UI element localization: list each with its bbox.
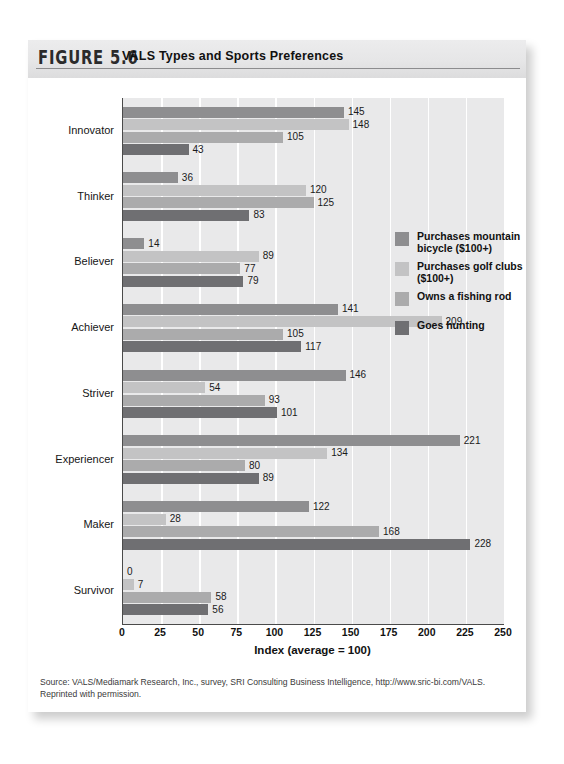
bar-row[interactable]: 54: [123, 382, 504, 393]
category-label: Maker: [83, 518, 114, 530]
bar[interactable]: [123, 341, 301, 352]
bar[interactable]: [123, 407, 277, 418]
bar[interactable]: [123, 329, 283, 340]
bar[interactable]: [123, 579, 134, 590]
legend-label: Purchases golf clubs ($100+): [417, 261, 545, 284]
category-label: Innovator: [68, 124, 114, 136]
bar-row[interactable]: 28: [123, 514, 504, 525]
bar[interactable]: [123, 197, 314, 208]
bar-row[interactable]: 83: [123, 210, 504, 221]
bar[interactable]: [123, 514, 166, 525]
bar-row[interactable]: 89: [123, 473, 504, 484]
x-tick-label: 250: [494, 626, 512, 638]
bar-row[interactable]: 221: [123, 435, 504, 446]
bar[interactable]: [123, 539, 470, 550]
legend-item[interactable]: Goes hunting: [395, 320, 545, 342]
x-tick-label: 0: [119, 626, 125, 638]
bar-row[interactable]: 56: [123, 604, 504, 615]
bar-value-label: 58: [211, 592, 226, 603]
bar[interactable]: [123, 460, 245, 471]
bar-value-label: 125: [314, 197, 335, 208]
gridline: [504, 98, 506, 624]
legend-item[interactable]: Purchases golf clubs ($100+): [395, 261, 545, 284]
figure-header: FIGURE 5.6 VALS Types and Sports Prefere…: [28, 40, 526, 78]
figure-title: VALS Types and Sports Preferences: [122, 49, 344, 63]
bar-row[interactable]: 43: [123, 144, 504, 155]
bar[interactable]: [123, 107, 344, 118]
legend-item[interactable]: Owns a fishing rod: [395, 291, 545, 313]
bar[interactable]: [123, 435, 460, 446]
bar-value-label: 134: [327, 448, 348, 459]
legend-label: Goes hunting: [417, 320, 545, 332]
bar-value-label: 145: [344, 106, 365, 117]
bar-row[interactable]: 80: [123, 460, 504, 471]
bar-row[interactable]: 101: [123, 407, 504, 418]
bar[interactable]: [123, 501, 309, 512]
bar[interactable]: [123, 263, 240, 274]
legend-swatch-icon: [395, 232, 409, 246]
bar[interactable]: [123, 132, 283, 143]
bar[interactable]: [123, 604, 208, 615]
bar[interactable]: [123, 251, 259, 262]
chart-area: Innovator14514810543Thinker3612012583Bel…: [28, 78, 526, 674]
bar[interactable]: [123, 210, 249, 221]
legend-swatch-icon: [395, 262, 409, 276]
bar[interactable]: [123, 382, 205, 393]
legend-item[interactable]: Purchases mountain bicycle ($100+): [395, 231, 545, 254]
bar-value-label: 168: [379, 526, 400, 537]
bar[interactable]: [123, 448, 327, 459]
bar[interactable]: [123, 526, 379, 537]
bar-value-label: 28: [166, 513, 181, 524]
bar-row[interactable]: 228: [123, 539, 504, 550]
bar-value-label: 83: [249, 210, 264, 221]
category-label: Achiever: [71, 321, 114, 333]
bar-row[interactable]: 0: [123, 567, 504, 578]
bar-value-label: 93: [265, 394, 280, 405]
x-tick-label: 200: [418, 626, 436, 638]
bar[interactable]: [123, 185, 306, 196]
bar-row[interactable]: 105: [123, 132, 504, 143]
bar[interactable]: [123, 592, 211, 603]
bar-row[interactable]: 120: [123, 185, 504, 196]
bar-row[interactable]: 36: [123, 172, 504, 183]
bar-row[interactable]: 168: [123, 526, 504, 537]
x-tick-label: 75: [230, 626, 242, 638]
bar-row[interactable]: 7: [123, 579, 504, 590]
x-tick-label: 25: [154, 626, 166, 638]
bar-row[interactable]: 146: [123, 370, 504, 381]
legend-label: Owns a fishing rod: [417, 291, 545, 303]
category-label: Believer: [74, 255, 114, 267]
bar[interactable]: [123, 316, 442, 327]
bar[interactable]: [123, 473, 259, 484]
bar[interactable]: [123, 304, 338, 315]
x-tick-label: 175: [380, 626, 398, 638]
bar-row[interactable]: 58: [123, 592, 504, 603]
bar-value-label: 7: [134, 579, 144, 590]
chart-legend: Purchases mountain bicycle ($100+)Purcha…: [395, 231, 545, 349]
bar-value-label: 0: [123, 567, 133, 578]
bar[interactable]: [123, 395, 265, 406]
bar[interactable]: [123, 144, 189, 155]
bar[interactable]: [123, 119, 349, 130]
bar-row[interactable]: 134: [123, 448, 504, 459]
plot-area: Innovator14514810543Thinker3612012583Bel…: [122, 98, 504, 625]
x-tick-label: 125: [304, 626, 322, 638]
bar-value-label: 14: [144, 238, 159, 249]
bar-value-label: 54: [205, 382, 220, 393]
bar[interactable]: [123, 238, 144, 249]
category-label: Striver: [82, 387, 114, 399]
bar-row[interactable]: 125: [123, 197, 504, 208]
bar-group: Striver1465493101: [123, 370, 504, 419]
bar-row[interactable]: 148: [123, 119, 504, 130]
bar-value-label: 228: [470, 538, 491, 549]
legend-swatch-icon: [395, 292, 409, 306]
bar-value-label: 221: [460, 435, 481, 446]
bar-group: Maker12228168228: [123, 501, 504, 550]
bar[interactable]: [123, 370, 346, 381]
bar-row[interactable]: 93: [123, 395, 504, 406]
bar-value-label: 89: [259, 473, 274, 484]
bar-row[interactable]: 145: [123, 107, 504, 118]
bar[interactable]: [123, 276, 243, 287]
bar[interactable]: [123, 172, 178, 183]
bar-row[interactable]: 122: [123, 501, 504, 512]
